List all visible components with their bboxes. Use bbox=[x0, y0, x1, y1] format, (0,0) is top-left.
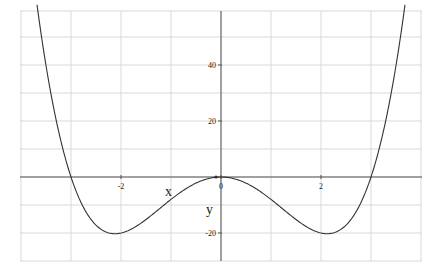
function-plot: -2024020-20 x y bbox=[0, 0, 437, 274]
y-tick-label: 40 bbox=[208, 61, 216, 70]
x-tick-label: 2 bbox=[319, 182, 323, 191]
x-tick-label: -2 bbox=[118, 182, 125, 191]
y-axis-label: y bbox=[206, 202, 213, 217]
origin-marker bbox=[214, 175, 217, 178]
x-axis-label: x bbox=[165, 184, 172, 199]
y-tick-label: -20 bbox=[205, 229, 216, 238]
x-tick-label: 0 bbox=[219, 182, 223, 191]
y-tick-label: 20 bbox=[208, 117, 216, 126]
